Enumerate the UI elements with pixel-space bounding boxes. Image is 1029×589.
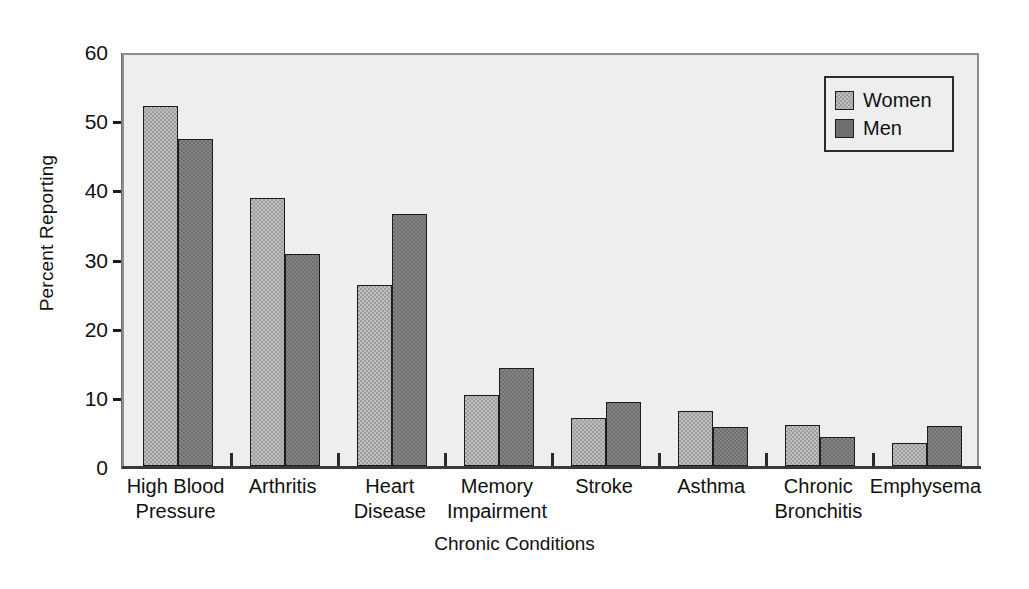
- bar-women-2: [357, 285, 392, 466]
- bar-women-0: [143, 106, 178, 466]
- legend-label-women: Women: [863, 90, 932, 110]
- legend-label-men: Men: [863, 118, 902, 138]
- bar-women-1: [250, 198, 285, 466]
- x-axis-line: [122, 466, 981, 469]
- bar-women-7: [892, 443, 927, 466]
- bar-men-5: [713, 427, 748, 466]
- legend-entry-men: Men: [835, 114, 942, 142]
- bar-men-6: [820, 437, 855, 466]
- x-axis-tick-mark: [658, 453, 661, 466]
- bar-men-4: [606, 402, 641, 466]
- bar-men-1: [285, 254, 320, 466]
- y-axis-tick-labels: 0102030405060: [52, 0, 108, 589]
- chart-figure: Percent Reporting 0102030405060 High Blo…: [0, 0, 1029, 589]
- x-axis-tick-mark: [765, 453, 768, 466]
- chart-legend: Women Men: [824, 76, 954, 152]
- bar-men-2: [392, 214, 427, 466]
- x-axis-tick-mark: [444, 453, 447, 466]
- y-axis-tick-label: 60: [68, 42, 108, 63]
- y-axis-tick-label: 10: [68, 388, 108, 409]
- x-axis-tick-label: Emphysema: [860, 474, 991, 499]
- y-axis-tick-label: 20: [68, 319, 108, 340]
- bar-women-4: [571, 418, 606, 466]
- y-axis-tick-label: 30: [68, 250, 108, 271]
- x-axis-tick-mark: [551, 453, 554, 466]
- y-axis-tick-label: 0: [68, 457, 108, 478]
- legend-swatch-men-icon: [835, 119, 854, 138]
- y-axis-tick-label: 40: [68, 180, 108, 201]
- y-axis-tick-label: 50: [68, 111, 108, 132]
- bar-men-3: [499, 368, 534, 466]
- bar-women-5: [678, 411, 713, 466]
- bar-women-6: [785, 425, 820, 467]
- bar-men-7: [927, 426, 962, 466]
- x-axis-title: Chronic Conditions: [0, 533, 1029, 555]
- x-axis-tick-mark: [872, 453, 875, 466]
- x-axis-tick-mark: [337, 453, 340, 466]
- bar-men-0: [178, 139, 213, 466]
- legend-entry-women: Women: [835, 86, 942, 114]
- x-axis-tick-mark: [230, 453, 233, 466]
- bar-women-3: [464, 395, 499, 466]
- legend-swatch-women-icon: [835, 91, 854, 110]
